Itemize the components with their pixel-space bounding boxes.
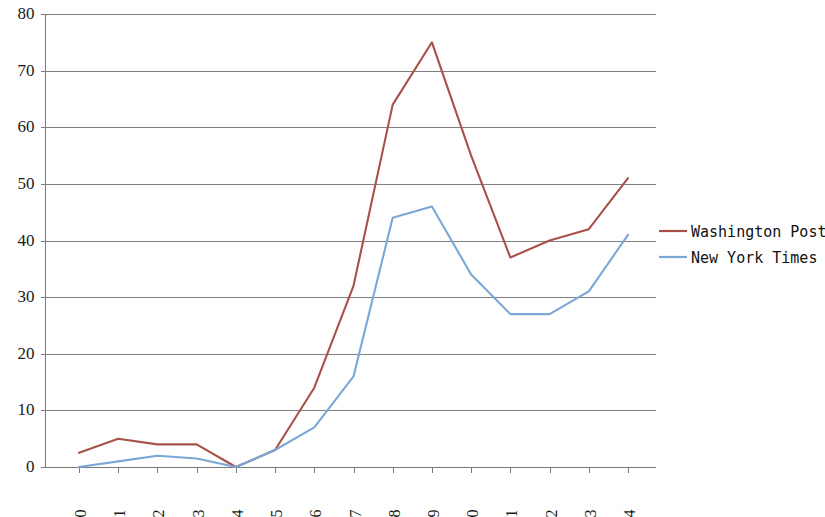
x-tick-label: 2006	[307, 509, 324, 517]
x-tick-label: 2009	[425, 509, 442, 517]
x-tick-label: 2007	[347, 509, 364, 517]
x-tick-label: 2014	[621, 509, 638, 517]
x-tick-label: 2001	[111, 509, 128, 517]
series-line-2	[79, 207, 628, 467]
data-series-lines	[79, 42, 628, 467]
y-tick-label: 50	[18, 174, 35, 193]
x-tick-label: 2013	[582, 509, 599, 517]
x-tick-label: 2002	[150, 509, 167, 517]
line-chart-figure: 01020304050607080 2000200120022003200420…	[0, 0, 825, 517]
y-tick-label: 60	[18, 117, 35, 136]
legend-label: New York Times	[691, 249, 817, 267]
x-tick-label: 2000	[72, 509, 89, 517]
y-tick-label: 80	[18, 4, 35, 23]
x-tick-label: 2003	[190, 509, 207, 517]
x-tick-label: 2011	[503, 509, 520, 517]
y-tick-label: 0	[26, 457, 35, 476]
legend-label: Washington Post	[691, 223, 825, 241]
x-tick-label: 2004	[229, 509, 246, 517]
x-tick-label: 2008	[386, 509, 403, 517]
chart-canvas: 01020304050607080 2000200120022003200420…	[0, 0, 825, 517]
y-axis-tick-labels: 01020304050607080	[18, 4, 35, 476]
y-tick-label: 20	[18, 344, 35, 363]
x-tick-label: 2012	[543, 509, 560, 517]
x-tick-label: 2005	[268, 509, 285, 517]
y-tick-label: 10	[18, 400, 35, 419]
y-tick-label: 30	[18, 287, 35, 306]
x-axis-tick-labels: 2000200120022003200420052006200720082009…	[72, 509, 638, 517]
legend: Washington PostNew York Times	[659, 223, 825, 267]
y-tick-label: 70	[18, 61, 35, 80]
series-line-1	[79, 42, 628, 467]
y-tick-label: 40	[18, 231, 35, 250]
gridlines	[41, 15, 657, 468]
x-tick-label: 2010	[464, 509, 481, 517]
